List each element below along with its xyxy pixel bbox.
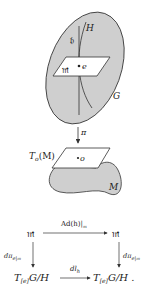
label-m: 𝔪 — [62, 65, 69, 75]
label-tangent-space: To(M) — [29, 151, 55, 162]
cd-top-arrow-label: Ad(h)|𝔪 — [60, 220, 87, 229]
cd-bottom-left: T[e]G/H — [14, 272, 49, 284]
cd-bottom-arrow-label: dlh — [70, 265, 80, 274]
label-M: M — [108, 182, 119, 192]
cd-bottom-right: T[e]G/H . — [93, 272, 134, 284]
cd-right-arrow-label: dπe|𝔪 — [123, 252, 140, 262]
cd-top-left: 𝔪 — [27, 228, 35, 239]
label-H: H — [85, 23, 94, 33]
cd-top-right: 𝔪 — [112, 228, 120, 239]
origin-point — [77, 157, 79, 159]
lie-group-diagram: H 𝔥 e 𝔪 G π o To(M) M 𝔪 𝔪 Ad(h)|𝔪 dπe|𝔪 … — [0, 0, 153, 298]
label-pi: π — [80, 128, 87, 137]
label-G: G — [113, 91, 120, 101]
identity-point — [78, 65, 81, 68]
label-o: o — [80, 154, 85, 163]
label-e: e — [82, 62, 87, 71]
label-h: 𝔥 — [70, 36, 74, 46]
cd-left-arrow-label: dπe|𝔪 — [4, 252, 21, 262]
